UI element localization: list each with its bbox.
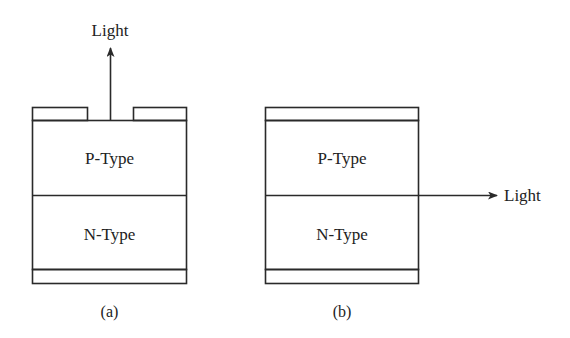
caption-b: (b) (333, 303, 352, 321)
bottom-contact-a (33, 270, 187, 284)
top-contact-b (266, 108, 419, 121)
p-type-layer-a: P-Type (85, 149, 134, 168)
p-type-layer-b: P-Type (318, 149, 367, 168)
diagram-b-edge-emitter: P-Type N-Type Light (b) (266, 108, 542, 322)
light-label-b: Light (504, 186, 541, 205)
n-type-layer-b: N-Type (316, 225, 368, 244)
diagram-a-surface-emitter: Light P-Type N-Type (a) (33, 21, 187, 321)
bottom-contact-b (266, 270, 419, 284)
top-contact-right-a (134, 108, 187, 121)
light-label-a: Light (92, 21, 129, 40)
caption-a: (a) (101, 303, 119, 321)
n-type-layer-a: N-Type (84, 225, 136, 244)
led-structure-figure: Light P-Type N-Type (a) P-Type N-Type Li… (0, 0, 570, 338)
top-contact-left-a (33, 108, 88, 121)
